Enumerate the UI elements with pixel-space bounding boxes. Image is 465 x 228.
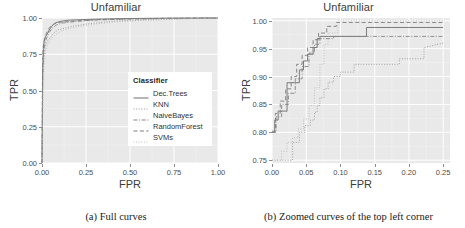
legend-item: NaiveBayes	[133, 110, 207, 121]
y-tick-mark	[269, 104, 272, 105]
x-tick-label: 0.15	[367, 168, 382, 177]
legend-line-swatch-icon	[133, 89, 149, 99]
x-tick-mark	[443, 164, 444, 167]
x-tick-mark	[174, 164, 175, 167]
x-tick-mark	[375, 164, 376, 167]
panel-a-y-axis-title: TPR	[8, 70, 20, 110]
x-tick-label: 1.00	[211, 168, 226, 177]
legend-item-label: KNN	[153, 100, 169, 109]
y-tick-label: 1.00	[252, 16, 267, 25]
y-tick-label: 0.75	[22, 50, 37, 59]
legend-item: KNN	[133, 99, 207, 110]
x-tick-label: 0.25	[436, 168, 451, 177]
x-tick-mark	[86, 164, 87, 167]
x-tick-mark	[130, 164, 131, 167]
legend-line-swatch-icon	[133, 122, 149, 132]
y-tick-label: 0.50	[22, 86, 37, 95]
y-tick-label: 0.90	[252, 72, 267, 81]
legend-line-swatch-icon	[133, 133, 149, 143]
y-tick-mark	[39, 18, 42, 19]
y-tick-label: 1.00	[22, 14, 37, 23]
legend-item-label: NaiveBayes	[153, 111, 193, 120]
y-tick-label: 0.80	[252, 128, 267, 137]
y-tick-mark	[269, 132, 272, 133]
caption-b: (b) Zoomed curves of the top left corner	[232, 211, 465, 222]
x-tick-label: 0.05	[299, 168, 314, 177]
x-tick-mark	[409, 164, 410, 167]
x-tick-label: 0.10	[333, 168, 348, 177]
legend-item-label: SVMs	[153, 133, 173, 142]
panel-b-x-axis-title: FPR	[272, 178, 450, 190]
legend-items: Dec.TreesKNNNaiveBayesRandomForestSVMs	[133, 88, 207, 143]
x-tick-label: 0.75	[167, 168, 182, 177]
panel-a-x-axis-title: FPR	[42, 178, 218, 190]
legend-item-label: RandomForest	[153, 122, 203, 131]
y-tick-mark	[269, 21, 272, 22]
legend-item: RandomForest	[133, 121, 207, 132]
x-tick-label: 0.25	[79, 168, 94, 177]
y-tick-label: 0.00	[22, 159, 37, 168]
panel-b: Unfamiliar TPR FPR 0.750.800.850.900.951…	[232, 0, 465, 190]
y-tick-label: 0.75	[252, 156, 267, 165]
legend-title: Classifier	[133, 76, 207, 85]
y-tick-label: 0.85	[252, 100, 267, 109]
legend-item: Dec.Trees	[133, 88, 207, 99]
x-tick-label: 0.00	[35, 168, 50, 177]
panel-b-y-axis-title: TPR	[240, 70, 252, 110]
x-tick-label: 0.00	[265, 168, 280, 177]
x-tick-label: 0.50	[123, 168, 138, 177]
y-tick-mark	[269, 49, 272, 50]
x-tick-label: 0.20	[402, 168, 417, 177]
y-tick-label: 0.95	[252, 44, 267, 53]
legend-item: SVMs	[133, 132, 207, 143]
x-tick-mark	[218, 164, 219, 167]
x-tick-mark	[306, 164, 307, 167]
y-tick-mark	[39, 91, 42, 92]
x-tick-mark	[42, 164, 43, 167]
y-tick-mark	[39, 54, 42, 55]
legend-line-swatch-icon	[133, 111, 149, 121]
y-tick-mark	[269, 77, 272, 78]
x-tick-mark	[272, 164, 273, 167]
legend-line-swatch-icon	[133, 100, 149, 110]
panel-a: Unfamiliar TPR FPR Classifier Dec.TreesK…	[0, 0, 232, 190]
y-tick-mark	[39, 127, 42, 128]
legend-item-label: Dec.Trees	[153, 89, 187, 98]
figure-roc-curves: Unfamiliar TPR FPR Classifier Dec.TreesK…	[0, 0, 465, 228]
y-tick-mark	[269, 160, 272, 161]
caption-a: (a) Full curves	[0, 211, 232, 222]
legend: Classifier Dec.TreesKNNNaiveBayesRandomF…	[128, 72, 212, 146]
x-tick-mark	[340, 164, 341, 167]
y-tick-label: 0.25	[22, 122, 37, 131]
